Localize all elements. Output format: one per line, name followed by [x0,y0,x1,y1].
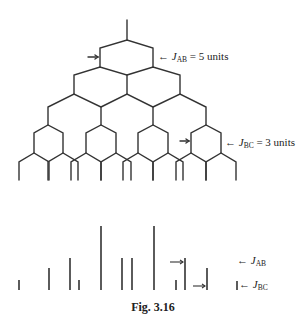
jab-tree-label: ← JAB = 5 units [158,50,228,64]
left-arrow-icon: ← [158,50,169,62]
jbc-subscript: BC [244,141,254,150]
jbc-spectrum-label: ← JBC [239,278,268,292]
left-arrow-icon: ← [225,136,236,148]
left-arrow-icon: ← [237,254,248,266]
jbc-subscript: BC [258,283,268,292]
jab-subscript: AB [256,259,266,268]
left-arrow-icon: ← [239,278,250,290]
figure-caption: Fig. 3.16 [0,300,306,315]
jab-value: = 5 units [187,50,228,62]
jab-spectrum-label: ← JAB [237,254,266,268]
jab-subscript: AB [177,55,187,64]
jbc-value: = 3 units [254,136,295,148]
jbc-tree-label: ← JBC = 3 units [225,136,295,150]
